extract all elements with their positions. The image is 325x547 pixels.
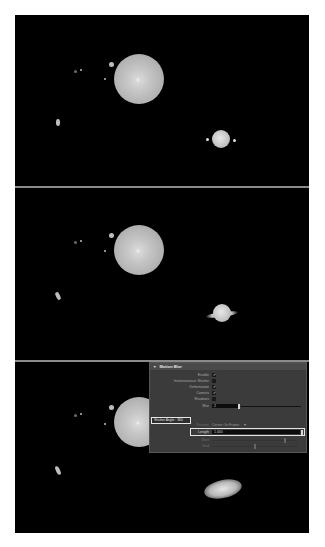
enable-label: Enable [198,373,209,377]
planet-small [109,233,114,238]
row-shadows: Shadows [150,396,306,402]
instantaneous-shutter-label: Instantaneous Shutter [174,379,209,383]
start-label: Start [201,438,209,442]
ringed-planet-distant [56,119,60,126]
motion-blur-panel: ▼ Motion Blur Enable ✓ Instantaneous Shu… [149,362,307,453]
blur-value: 2 [214,404,216,408]
shadows-checkbox[interactable] [212,397,216,401]
planet-tiny [104,423,106,425]
ringed-planet-distant [54,292,61,301]
panel-title: Motion Blur [159,364,181,369]
moon [206,138,209,141]
position-dropdown[interactable]: Center On Frame ▾ [212,423,246,427]
enable-checkbox[interactable]: ✓ [212,373,216,377]
length-slider-handle[interactable] [301,430,303,435]
blur-slider-track[interactable] [241,406,301,407]
planet-tiny [74,70,77,73]
deformation-label: Deformation [189,385,209,389]
instantaneous-shutter-checkbox[interactable] [212,379,216,383]
blur-slider-field[interactable]: 2 [212,404,240,408]
ringed-planet [212,130,230,148]
ringed-planet-distant [54,466,61,476]
motion-blur-header[interactable]: ▼ Motion Blur [150,363,306,370]
planet-small [109,62,114,67]
ringed-planet [213,304,231,322]
planet-tiny [74,414,77,417]
length-slider-field[interactable]: 1.000 [212,430,300,434]
row-length: Length 1.000 [150,429,306,435]
frame-motion-blur [16,188,308,360]
planet-small [109,405,114,410]
row-end: End [150,443,306,449]
render-comparison-figure: ▼ Motion Blur Enable ✓ Instantaneous Shu… [15,15,309,533]
length-label: Length [198,430,209,434]
start-slider-handle[interactable] [284,438,286,443]
sun [114,225,164,275]
planet-tiny [104,78,106,80]
blur-label: Blur [203,404,209,408]
end-slider-handle[interactable] [254,444,256,449]
motion-blurred-planet [203,476,244,502]
end-label: End [203,444,209,448]
row-blur: Blur 2 [150,403,306,409]
planet-tiny [80,413,82,415]
shadows-label: Shadows [194,397,209,401]
planet-tiny [80,69,82,71]
planet-tiny [74,241,77,244]
camera-checkbox[interactable]: ✓ [212,391,216,395]
planet-tiny [104,250,106,252]
blur-slider-handle[interactable] [238,404,240,409]
position-label: Position [196,423,209,427]
sun [114,54,164,104]
camera-label: Camera [196,391,209,395]
frame-no-blur [16,16,308,186]
dropdown-arrow-icon: ▾ [244,423,246,427]
deformation-checkbox[interactable]: ✓ [212,385,216,389]
collapse-triangle-icon[interactable]: ▼ [153,365,156,369]
planet-tiny [80,240,82,242]
length-value: 1.000 [214,430,223,434]
position-value: Center On Frame [212,423,239,427]
moon [233,139,236,142]
